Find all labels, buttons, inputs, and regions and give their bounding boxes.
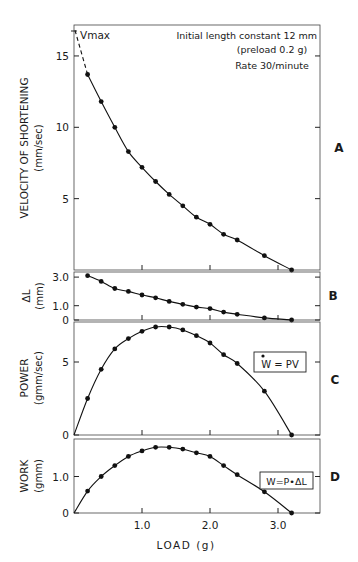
data-point — [208, 341, 213, 346]
y-tick-label: 1.0 — [52, 300, 69, 312]
data-point — [85, 489, 90, 494]
data-point — [85, 273, 90, 278]
x-axis-ticks: 1.02.03.0 — [134, 519, 287, 531]
velocity-curve — [88, 75, 292, 270]
y-axis-units-velocity: (mm/sec) — [33, 124, 44, 172]
panel-label-a: A — [334, 141, 344, 155]
data-point — [112, 463, 117, 468]
note-line-2: (preload 0.2 g) — [237, 44, 307, 55]
panel-d: 01.0 1.02.03.0 W=P•ΔL WORK (gmm) D LOAD … — [18, 439, 340, 551]
data-point — [99, 367, 104, 372]
data-point — [221, 352, 226, 357]
data-point — [126, 289, 131, 294]
data-point — [126, 336, 131, 341]
data-point — [180, 302, 185, 307]
muscle-mechanics-figure: 51015 Vmax Initial length constant 12 mm… — [0, 0, 358, 562]
y-axis-units-delta-l: (mm) — [34, 282, 45, 309]
data-point — [221, 232, 226, 237]
data-point — [140, 165, 145, 170]
data-point — [140, 449, 145, 454]
y-axis-units-work: (gmm) — [33, 459, 44, 493]
vmax-label: Vmax — [80, 29, 110, 41]
panel-b: 01.03.0 ΔL (mm) B — [20, 271, 338, 326]
data-point — [167, 299, 172, 304]
data-point — [153, 325, 158, 330]
x-tick-label: 3.0 — [270, 519, 287, 531]
y-axis-units-power: (gmm/sec) — [33, 351, 44, 405]
data-point — [208, 454, 213, 459]
work-curve — [74, 447, 292, 513]
y-tick-label: 5 — [62, 356, 69, 368]
legend-power: W = PV — [261, 359, 299, 370]
data-point — [126, 454, 131, 459]
data-point — [140, 329, 145, 334]
data-point — [289, 433, 294, 438]
data-point — [221, 310, 226, 315]
y-tick-label: 5 — [62, 193, 69, 205]
panel-b-yticks: 01.03.0 — [52, 271, 320, 326]
data-point — [194, 333, 199, 338]
data-point — [99, 474, 104, 479]
y-tick-label: 3.0 — [52, 271, 69, 283]
data-point — [99, 99, 104, 104]
data-point — [194, 305, 199, 310]
data-point — [180, 447, 185, 452]
panel-a: 51015 Vmax Initial length constant 12 mm… — [18, 25, 344, 272]
panel-c-frame — [74, 322, 320, 435]
w-dot-accent — [261, 354, 264, 357]
data-point — [126, 149, 131, 154]
data-point — [167, 192, 172, 197]
data-point — [167, 325, 172, 330]
panel-label-b: B — [328, 289, 337, 303]
y-axis-label-power: POWER — [18, 359, 30, 398]
data-point — [99, 279, 104, 284]
data-point — [289, 511, 294, 516]
data-point — [153, 179, 158, 184]
legend-work: W=P•ΔL — [266, 476, 307, 487]
y-tick-label: 15 — [56, 50, 69, 62]
y-tick-label: 0 — [62, 314, 69, 326]
power-points — [85, 325, 294, 438]
data-point — [221, 463, 226, 468]
panel-label-c: C — [331, 373, 340, 387]
data-point — [112, 125, 117, 130]
data-point — [235, 312, 240, 317]
data-point — [262, 389, 267, 394]
panel-b-frame — [74, 272, 320, 320]
panel-c: 05 W = PV POWER (gmm/sec) C — [18, 322, 340, 441]
data-point — [194, 215, 199, 220]
data-point — [140, 293, 145, 298]
x-axis-label: LOAD (g) — [156, 539, 215, 551]
x-tick-label: 2.0 — [202, 519, 219, 531]
velocity-points — [85, 72, 294, 272]
data-point — [208, 306, 213, 311]
delta-l-points — [85, 273, 294, 322]
data-point — [153, 295, 158, 300]
x-tick-label: 1.0 — [134, 519, 151, 531]
y-tick-label: 0 — [62, 429, 69, 441]
y-tick-label: 1.0 — [52, 471, 69, 483]
y-tick-label: 10 — [56, 121, 69, 133]
data-point — [262, 253, 267, 258]
data-point — [208, 222, 213, 227]
data-point — [262, 489, 267, 494]
data-point — [85, 72, 90, 77]
data-point — [235, 472, 240, 477]
data-point — [85, 396, 90, 401]
data-point — [167, 445, 172, 450]
data-point — [180, 203, 185, 208]
note-line-3: Rate 30/minute — [235, 60, 309, 71]
data-point — [235, 238, 240, 243]
note-line-1: Initial length constant 12 mm — [176, 30, 317, 41]
data-point — [153, 445, 158, 450]
panel-label-d: D — [330, 470, 340, 484]
data-point — [262, 316, 267, 321]
data-point — [194, 450, 199, 455]
y-axis-label-delta-l: ΔL — [20, 289, 32, 302]
y-tick-label: 0 — [62, 507, 69, 519]
data-point — [112, 286, 117, 291]
panel-a-yticks: 51015 — [56, 50, 320, 270]
delta-l-curve — [88, 276, 292, 320]
data-point — [235, 361, 240, 366]
power-curve — [74, 327, 292, 435]
